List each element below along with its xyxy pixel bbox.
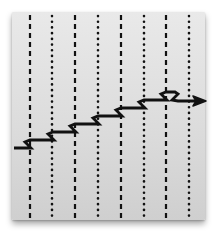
staircase-diagram <box>0 0 216 234</box>
staircase-path <box>14 92 196 148</box>
diagram-stage <box>0 0 216 234</box>
staircase-arrow <box>14 92 196 148</box>
